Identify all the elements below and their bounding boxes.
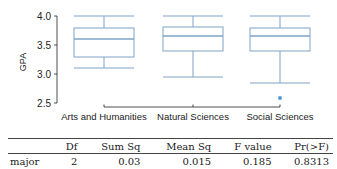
table-header-row: Df Sum Sq Mean Sq F value Pr(>F) [8, 139, 333, 154]
y-axis-title: GPA [18, 53, 28, 71]
cell-f-value: 0.185 [215, 154, 275, 169]
outlier-point [278, 96, 282, 100]
y-tick-label: 3.0 [37, 69, 51, 80]
y-axis: 4.0 3.5 3.0 2.5 GPA [18, 11, 57, 109]
cell-p-value: 0.8313 [276, 154, 333, 169]
y-tick-label: 4.0 [37, 11, 51, 22]
x-axis: Arts and Humanities Natural Sciences Soc… [61, 105, 314, 123]
header-term [8, 139, 55, 154]
x-category-label: Natural Sciences [157, 111, 229, 122]
box-social-sciences [250, 16, 310, 83]
header-f-value: F value [215, 139, 275, 154]
cell-sum-sq: 0.03 [81, 154, 144, 169]
y-tick-label: 3.5 [37, 40, 51, 51]
x-category-label: Arts and Humanities [61, 111, 147, 122]
cell-df: 2 [55, 154, 81, 169]
box-arts-and-humanities [74, 16, 134, 68]
table-row: major 2 0.03 0.015 0.185 0.8313 [8, 154, 333, 169]
header-sum-sq: Sum Sq [81, 139, 144, 154]
box-natural-sciences [163, 16, 223, 77]
gpa-boxplot-chart: 4.0 3.5 3.0 2.5 GPA Arts and Humanities … [0, 0, 337, 130]
x-category-label: Social Sciences [246, 111, 313, 122]
cell-term: major [8, 154, 55, 169]
cell-mean-sq: 0.015 [144, 154, 215, 169]
y-tick-label: 2.5 [37, 98, 51, 109]
anova-table: Df Sum Sq Mean Sq F value Pr(>F) major 2… [8, 138, 333, 168]
header-mean-sq: Mean Sq [144, 139, 215, 154]
header-p-value: Pr(>F) [276, 139, 333, 154]
header-df: Df [55, 139, 81, 154]
